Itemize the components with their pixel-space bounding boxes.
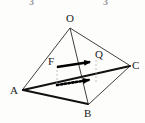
vertex-label-O: O (66, 13, 74, 24)
edge-OA (23, 28, 70, 89)
point-label-F: F (48, 56, 54, 67)
vertex-label-A: A (10, 85, 18, 96)
tetrahedron-edges (23, 28, 130, 104)
vector-upper-solid (57, 62, 90, 67)
edge-AB (23, 90, 88, 104)
edge-AC (23, 66, 130, 90)
diagram-canvas: 3 3 O A B (0, 0, 145, 123)
vertex-label-B: B (84, 108, 91, 119)
vertex-label-C: C (132, 60, 139, 71)
edge-BC (89, 66, 130, 104)
point-label-Q: Q (95, 49, 103, 60)
vector-upper-solid-shaft (57, 62, 90, 67)
